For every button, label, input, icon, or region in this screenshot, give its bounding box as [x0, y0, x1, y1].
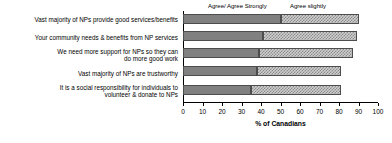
bar-segment-agree-strongly [183, 66, 257, 76]
stacked-bar-chart: Agree/ Agree Strongly Agree slightly Vas… [0, 0, 392, 143]
x-axis-tick-label: 100 [373, 107, 384, 116]
x-axis-tick [339, 103, 340, 106]
bar-segment-agree-slightly [251, 85, 341, 95]
x-axis-tick [281, 103, 282, 106]
bar-row [183, 31, 357, 41]
x-axis-tick [320, 103, 321, 106]
bar-row [183, 85, 341, 95]
bar-segment-agree-slightly [263, 31, 357, 41]
x-axis-tick-label: 10 [199, 107, 206, 116]
bar-segment-agree-slightly [259, 48, 353, 58]
plot-area [183, 11, 378, 103]
bar-segment-agree-strongly [183, 14, 281, 24]
x-axis-tick [261, 103, 262, 106]
x-axis-tick [359, 103, 360, 106]
bar-segment-agree-strongly [183, 85, 251, 95]
category-label-4: It is a social responsibility for indivi… [0, 84, 178, 99]
category-label-1: Your community needs & benefits from NP … [0, 34, 178, 41]
x-axis-tick-label: 50 [277, 107, 284, 116]
category-label-3: Vast majority of NPs are trustworthy [0, 70, 178, 77]
x-axis-tick-label: 60 [296, 107, 303, 116]
bar-segment-agree-strongly [183, 31, 263, 41]
legend-label-agree-strongly: Agree/ Agree Strongly [208, 2, 267, 10]
x-axis-tick [183, 103, 184, 106]
x-axis-tick [378, 103, 379, 106]
x-axis-tick-label: 20 [218, 107, 225, 116]
bar-segment-agree-strongly [183, 48, 259, 58]
category-axis-labels: Vast majority of NPs provide good servic… [0, 11, 180, 103]
bar-row [183, 14, 359, 24]
x-axis-tick-label: 40 [257, 107, 264, 116]
x-axis-tick-labels: 0102030405060708090100 [183, 107, 378, 117]
category-label-2: We need more support for NPs so they can… [0, 48, 178, 63]
x-axis-tick-label: 30 [238, 107, 245, 116]
category-label-0: Vast majority of NPs provide good servic… [0, 16, 178, 23]
x-axis-title: % of Canadians [183, 120, 378, 127]
bar-row [183, 48, 353, 58]
x-axis-tick-label: 90 [355, 107, 362, 116]
x-axis-tick-label: 70 [316, 107, 323, 116]
bar-segment-agree-slightly [281, 14, 359, 24]
bar-row [183, 66, 341, 76]
x-axis-tick [203, 103, 204, 106]
x-axis-tick [222, 103, 223, 106]
bar-segment-agree-slightly [257, 66, 341, 76]
x-axis-tick-label: 0 [181, 107, 185, 116]
x-axis-tick [242, 103, 243, 106]
x-axis-tick [300, 103, 301, 106]
legend-label-agree-slightly: Agree slightly [290, 2, 326, 10]
x-axis-tick-label: 80 [335, 107, 342, 116]
